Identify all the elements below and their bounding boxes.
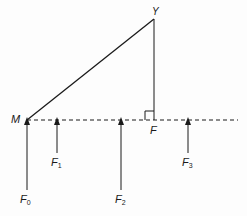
force-label-f1-base: F: [51, 156, 58, 168]
force-label-f0-base: F: [20, 193, 27, 205]
point-label-f: F: [150, 125, 157, 136]
force-label-f3-base: F: [182, 156, 189, 168]
force-label-f1-sub: 1: [58, 162, 62, 169]
force-label-f3-sub: 3: [189, 162, 193, 169]
diagram-canvas: M Y F F0 F1 F2 F3: [0, 0, 247, 216]
right-angle-marker: [145, 111, 154, 120]
segment-m-y: [27, 19, 154, 120]
force-label-f3: F3: [182, 157, 193, 169]
force-label-f1: F1: [51, 157, 62, 169]
point-label-m: M: [11, 114, 20, 125]
force-arrow-f3: [185, 117, 191, 153]
force-label-f2-sub: 2: [122, 199, 126, 206]
force-label-f0: F0: [20, 194, 31, 206]
force-label-f2: F2: [115, 194, 126, 206]
force-label-f2-base: F: [115, 193, 122, 205]
force-label-f0-sub: 0: [27, 199, 31, 206]
point-label-y: Y: [152, 7, 159, 17]
force-arrow-f2: [118, 117, 124, 190]
diagram-svg: [0, 0, 247, 216]
force-arrow-f1: [54, 117, 60, 153]
force-arrow-f0: [24, 117, 30, 190]
